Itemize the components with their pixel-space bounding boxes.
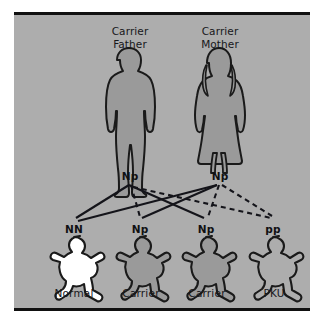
- father-caption: Carrier Father: [87, 25, 173, 50]
- allele-lines: [76, 185, 272, 221]
- father-genotype: Np: [115, 170, 145, 182]
- child-phenotype-carrier-1: Carrier: [108, 287, 174, 299]
- line-mother-p-to-pp: [222, 185, 272, 216]
- line-father-N-to-carrier2: [129, 185, 204, 218]
- child-genotype-carrier-1: Np: [125, 223, 155, 235]
- line-father-N-to-NN: [76, 185, 129, 218]
- diagram-graphics: [14, 15, 310, 308]
- mother-silhouette: [195, 48, 245, 173]
- child-phenotype-pku: PKU: [241, 287, 307, 299]
- child-genotype-pku: pp: [258, 223, 288, 235]
- line-mother-p-to-carrier2: [208, 185, 219, 217]
- mother-genotype: Np: [205, 170, 235, 182]
- diagram-panel: Carrier Father Carrier Mother Np Np NN N…: [14, 15, 310, 308]
- pku-inheritance-figure: Carrier Father Carrier Mother Np Np NN N…: [0, 0, 323, 325]
- child-genotype-carrier-2: Np: [191, 223, 221, 235]
- child-phenotype-normal: Normal: [41, 287, 107, 299]
- child-genotype-normal: NN: [59, 223, 89, 235]
- mother-caption: Carrier Mother: [177, 25, 263, 50]
- bottom-rule: [14, 308, 310, 311]
- child-phenotype-carrier-2: Carrier: [174, 287, 240, 299]
